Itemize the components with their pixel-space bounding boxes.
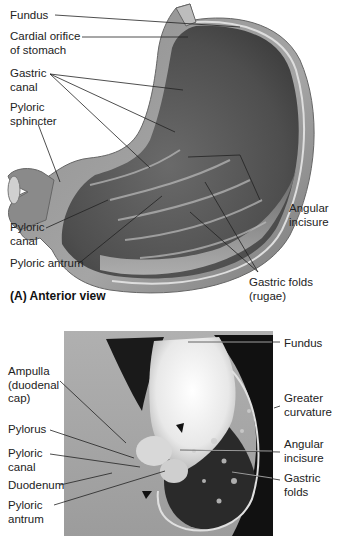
- label-gastric-folds-b: Gastric folds: [284, 472, 320, 499]
- label-pyloric-canal-b: Pyloric canal: [8, 447, 43, 474]
- label-pylorus: Pylorus: [8, 423, 46, 437]
- label-duodenum: Duodenum: [8, 479, 64, 493]
- label-greater-curvature: Greater curvature: [284, 392, 332, 419]
- label-angular-incisure-b: Angular incisure: [284, 438, 324, 465]
- label-ampulla: Ampulla (duodenal cap): [8, 365, 59, 406]
- label-fundus-b: Fundus: [284, 337, 322, 351]
- label-pyloric-antrum-b: Pyloric antrum: [8, 499, 44, 526]
